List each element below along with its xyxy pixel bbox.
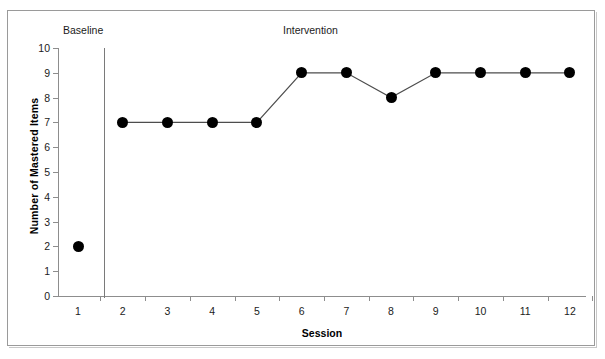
y-tick-label: 8 bbox=[22, 93, 50, 103]
y-axis-line bbox=[58, 48, 59, 297]
data-point bbox=[430, 67, 441, 78]
x-tick-label: 11 bbox=[505, 305, 545, 317]
x-tick bbox=[592, 296, 593, 301]
data-point bbox=[207, 117, 218, 128]
y-tick bbox=[53, 48, 58, 49]
x-tick-label: 8 bbox=[371, 305, 411, 317]
y-tick bbox=[53, 122, 58, 123]
y-tick-label: 9 bbox=[22, 68, 50, 78]
x-tick bbox=[190, 296, 191, 301]
data-point bbox=[296, 67, 307, 78]
x-tick bbox=[503, 296, 504, 301]
y-tick bbox=[53, 197, 58, 198]
y-tick bbox=[53, 296, 58, 297]
data-point bbox=[386, 92, 397, 103]
y-tick bbox=[53, 246, 58, 247]
x-tick bbox=[413, 296, 414, 301]
data-point bbox=[251, 117, 262, 128]
x-tick bbox=[369, 296, 370, 301]
x-tick bbox=[100, 296, 101, 301]
x-tick-label: 5 bbox=[237, 305, 277, 317]
x-tick bbox=[279, 296, 280, 301]
y-tick bbox=[53, 98, 58, 99]
data-point bbox=[341, 67, 352, 78]
chart-plot-area: Baseline Intervention Number of Mastered… bbox=[0, 0, 605, 359]
x-axis-title: Session bbox=[58, 327, 586, 339]
y-tick-label: 1 bbox=[22, 266, 50, 276]
y-tick-label: 2 bbox=[22, 241, 50, 251]
x-tick-label: 2 bbox=[103, 305, 143, 317]
phase-change-line bbox=[104, 48, 105, 298]
x-tick-label: 9 bbox=[416, 305, 456, 317]
data-point bbox=[475, 67, 486, 78]
x-tick-label: 6 bbox=[282, 305, 322, 317]
data-point bbox=[162, 117, 173, 128]
x-tick-label: 10 bbox=[460, 305, 500, 317]
x-tick-label: 3 bbox=[147, 305, 187, 317]
y-tick-label: 10 bbox=[22, 43, 50, 53]
y-tick-label: 4 bbox=[22, 192, 50, 202]
data-point bbox=[117, 117, 128, 128]
x-tick-label: 4 bbox=[192, 305, 232, 317]
x-tick bbox=[235, 296, 236, 301]
phase-label-intervention: Intervention bbox=[283, 24, 338, 36]
x-tick-label: 12 bbox=[550, 305, 590, 317]
y-tick-label: 3 bbox=[22, 217, 50, 227]
x-axis-line bbox=[58, 296, 586, 297]
y-tick bbox=[53, 271, 58, 272]
x-tick-label: 7 bbox=[326, 305, 366, 317]
data-point bbox=[520, 67, 531, 78]
phase-label-baseline: Baseline bbox=[63, 24, 103, 36]
x-tick bbox=[324, 296, 325, 301]
y-tick-label: 5 bbox=[22, 167, 50, 177]
x-tick bbox=[145, 296, 146, 301]
y-tick bbox=[53, 147, 58, 148]
data-point bbox=[73, 241, 84, 252]
data-point bbox=[564, 67, 575, 78]
y-tick-label: 7 bbox=[22, 117, 50, 127]
x-tick bbox=[548, 296, 549, 301]
x-tick bbox=[458, 296, 459, 301]
y-tick bbox=[53, 172, 58, 173]
x-tick-label: 1 bbox=[58, 305, 98, 317]
y-tick-label: 0 bbox=[22, 291, 50, 301]
y-tick bbox=[53, 73, 58, 74]
y-tick-label: 6 bbox=[22, 142, 50, 152]
y-tick bbox=[53, 222, 58, 223]
